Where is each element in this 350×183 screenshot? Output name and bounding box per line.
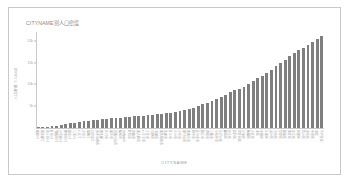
bar [60,125,63,128]
bar [142,116,145,128]
x-tick-label: 奥多摩 [99,130,103,139]
x-tick-label: 調布市 [205,130,209,139]
bar [169,113,172,128]
x-tick-label: 小平市 [177,130,181,139]
bar [55,126,58,128]
x-tick-label: 千代田区 [319,130,323,142]
x-tick-label: 新島村 [67,130,71,139]
bar [279,63,282,128]
bar [224,95,227,128]
x-tick-label: 羽村市 [104,130,108,139]
bar [73,123,76,128]
x-tick-label: 利島村 [49,130,53,139]
bar [220,97,223,128]
bar [229,92,232,128]
bar [147,115,150,128]
x-axis-line [36,128,324,129]
bar [247,84,250,129]
x-axis-title: CITYNAME [9,160,340,165]
x-tick-label: multipoint [122,130,126,141]
bar [256,78,259,128]
x-tick-label: 杉並区 [241,130,245,139]
bar [124,117,127,128]
x-tick-label: 青梅市 [131,130,135,139]
bar [188,109,191,128]
x-tick-label: 新宿区 [282,130,286,139]
x-tick-label: 立川市 [173,130,177,139]
bar [37,127,40,128]
x-tick-label: 三宅村 [72,130,76,139]
x-tick-label: 八王子市 [141,130,145,142]
x-tick-label: 小笠原村 [58,130,62,142]
bar [311,42,314,128]
bar [192,108,195,129]
x-tick-label: 多摩市 [163,130,167,139]
bar [174,112,177,128]
bar [165,113,168,128]
bar [46,127,49,128]
bar [316,39,319,128]
x-tick-label: 青ヶ島村 [45,130,49,142]
x-tick-label: 大島町 [81,130,85,139]
bar [41,127,44,128]
bar [119,118,122,128]
bar [270,70,273,128]
bar [115,118,118,128]
x-tick-label: 町田市 [145,130,149,139]
bar [307,45,310,128]
plot-area [36,32,324,128]
y-tick-label: 10k [28,82,33,86]
bar [83,121,86,128]
x-tick-label: 中野区 [259,130,263,139]
bar [197,106,200,128]
bar [183,110,186,128]
x-tick-label: 渋谷区 [273,130,277,139]
bar [201,104,204,128]
bar [320,36,323,129]
bar [160,114,163,128]
bar [211,101,214,128]
x-tick-label: 奥多摩町 [40,130,44,142]
x-tick-label: 国立市 [168,130,172,139]
bar [87,121,90,128]
x-tick-label: 西東京市 [186,130,190,142]
bar [105,119,108,128]
x-axis-tick-labels: 檜原村奥多摩町青ヶ島村利島村御蔵島村小笠原村神津島村新島村三宅村八丈町大島町瑞穂… [36,130,324,160]
x-tick-label: 狛江市 [200,130,204,139]
y-axis-tick-labels: 5k10k15k20k [9,32,36,128]
bar [233,90,236,128]
y-tick-label: 20k [28,39,33,43]
x-tick-label: 武蔵村山市 [113,130,117,145]
x-tick-label: 港区 [314,130,318,136]
x-tick-label: 東大和市 [136,130,140,142]
bar [215,99,218,128]
bar [156,114,159,128]
bar [302,48,305,128]
x-tick-label: 台東区 [296,130,300,139]
bar [265,73,268,128]
bar [101,119,104,128]
x-tick-label: 福生市 [109,130,113,139]
bar [51,126,54,128]
bar [284,60,287,128]
x-tick-label: 檜原村 [35,130,39,139]
bar [64,124,67,128]
bar [96,120,99,128]
bar [206,103,209,128]
x-tick-label: 三鷹市 [209,130,213,139]
y-tick-label: 5k [29,104,33,108]
bar [137,116,140,128]
chart-figure: CITYNAME別人口密度 人口密度（人/km2） 5k10k15k20k 檜原… [8,7,341,175]
bar [243,87,246,128]
bar [252,81,255,128]
x-tick-label: 日の出町 [90,130,94,142]
x-tick-label: 豊島区 [305,130,309,139]
bar [275,66,278,128]
bar [128,117,131,128]
x-tick-label: 文京区 [291,130,295,139]
bar [78,122,81,128]
y-tick-label: 15k [28,61,33,65]
x-tick-label: 足立区 [227,130,231,139]
bar [293,53,296,128]
x-tick-label: 葛飾区 [232,130,236,139]
